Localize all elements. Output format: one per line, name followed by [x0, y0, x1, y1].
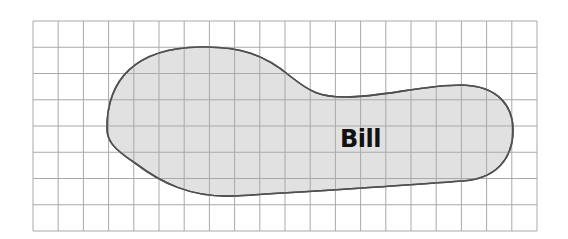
- grid-lines: [33, 21, 537, 231]
- shape-label: Bill: [340, 125, 381, 153]
- grid-area-diagram: Bill: [0, 0, 568, 239]
